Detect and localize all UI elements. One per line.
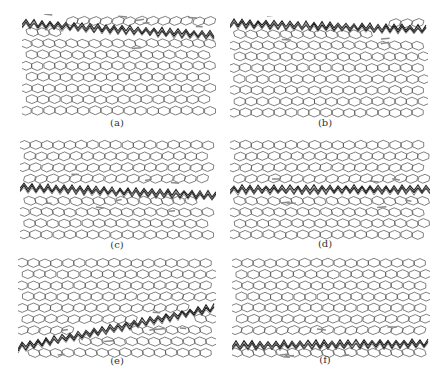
hexagonal-lattice-c xyxy=(20,138,216,246)
panel-c xyxy=(20,138,216,246)
panel-label-a: (a) xyxy=(97,117,137,128)
debris-fragment xyxy=(370,181,379,182)
panel-d xyxy=(230,138,430,242)
debris-fragment xyxy=(392,179,400,180)
debris-fragment xyxy=(188,17,197,18)
debris-fragment xyxy=(381,38,390,39)
panel-b xyxy=(230,16,428,118)
panel-label-b: (b) xyxy=(305,117,345,128)
hexagonal-lattice-a xyxy=(22,14,216,120)
panel-label-e: (e) xyxy=(97,355,137,366)
debris-fragment xyxy=(171,183,179,184)
debris-fragment xyxy=(282,39,291,40)
debris-fragment xyxy=(149,329,156,330)
debris-fragment xyxy=(118,16,127,17)
debris-fragment xyxy=(143,23,150,24)
debris-fragment xyxy=(44,14,52,15)
debris-fragment xyxy=(377,207,386,208)
debris-fragment xyxy=(136,19,144,20)
hexagonal-lattice-e xyxy=(18,256,216,364)
debris-fragment xyxy=(104,341,113,342)
debris-fragment xyxy=(156,328,165,329)
panel-label-c: (c) xyxy=(97,239,137,250)
panel-f xyxy=(232,256,430,358)
hexagonal-lattice-b xyxy=(230,16,428,118)
debris-fragment xyxy=(132,48,142,49)
panel-a xyxy=(22,14,216,120)
debris-fragment xyxy=(317,329,326,330)
debris-fragment xyxy=(58,354,65,355)
debris-fragment xyxy=(96,207,104,208)
debris-fragment xyxy=(180,328,186,329)
debris-fragment xyxy=(61,330,68,331)
hexagonal-lattice-d xyxy=(230,138,430,242)
panel-e xyxy=(18,256,216,364)
panel-label-f: (f) xyxy=(305,354,345,365)
panel-label-d: (d) xyxy=(305,238,345,249)
hexagonal-lattice-f xyxy=(232,256,430,358)
